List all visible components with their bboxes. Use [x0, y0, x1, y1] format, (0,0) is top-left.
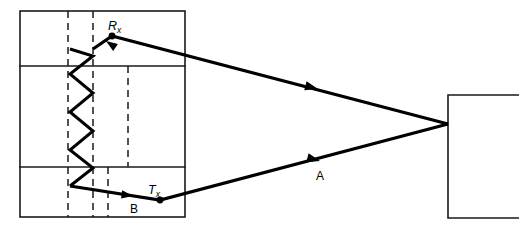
label-tx: Tx [148, 183, 161, 199]
label-rx-base: R [108, 19, 117, 33]
label-rx: Rx [108, 19, 122, 35]
diagram-canvas: Rx Tx A B [0, 0, 519, 233]
right-building-outline [448, 95, 519, 218]
upper-ray-direction-arrow [304, 81, 319, 93]
label-point-a: A [316, 169, 324, 183]
label-point-b: B [130, 202, 138, 216]
multipath-zigzag [70, 49, 93, 186]
node-rx [109, 33, 116, 40]
upper-ray-path [93, 36, 448, 124]
label-tx-subscript: x [155, 189, 161, 199]
label-rx-subscript: x [116, 25, 122, 35]
ray-propagation-diagram: Rx Tx A B [0, 0, 519, 233]
lower-ray-path [70, 124, 448, 200]
